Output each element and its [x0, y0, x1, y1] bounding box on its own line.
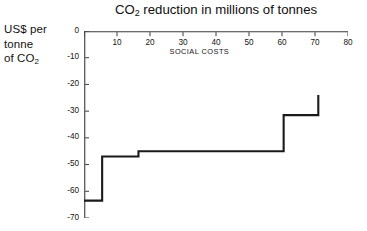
x-tick-label: 10	[106, 38, 128, 47]
chart-figure: US$ per tonne of CO2 CO2 reduction in mi…	[0, 0, 367, 231]
x-tick-label: 30	[172, 38, 194, 47]
y-tick-label: -60	[57, 186, 79, 195]
y-tick-label: -50	[57, 159, 79, 168]
y-tick-label: 0	[57, 26, 79, 35]
x-tick-label: 40	[205, 38, 227, 47]
y-tick-label: -40	[57, 132, 79, 141]
y-tick-label: -20	[57, 79, 79, 88]
chart-title: CO2 reduction in millions of tonnes	[84, 2, 348, 21]
y-tick-label: -70	[57, 213, 79, 222]
y-axis-label-line-3: of CO2	[4, 51, 62, 69]
x-tick-label: 60	[271, 38, 293, 47]
y-axis-label: US$ per tonne of CO2	[4, 22, 62, 69]
y-tick-label: -10	[57, 52, 79, 61]
y-axis-ticks	[85, 31, 89, 218]
chart-svg	[84, 31, 348, 218]
y-axis-label-line-1: US$ per	[4, 22, 62, 37]
y-tick-label: -30	[57, 106, 79, 115]
x-tick-label: 50	[238, 38, 260, 47]
x-axis-ticks	[84, 32, 348, 36]
plot-area: 1020304050607080 0-10-20-30-40-50-60-70	[84, 31, 348, 218]
data-series-line	[84, 95, 318, 201]
x-tick-label: 80	[337, 38, 359, 47]
y-axis-label-line-2: tonne	[4, 37, 62, 52]
x-tick-label: 70	[304, 38, 326, 47]
x-tick-label: 20	[139, 38, 161, 47]
